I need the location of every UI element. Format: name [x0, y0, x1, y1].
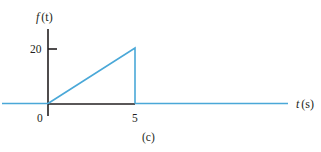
- chart: f(t) 20 0 5 t(s) (c): [0, 0, 321, 152]
- figure-caption: (c): [142, 131, 155, 144]
- y-axis-label: f(t): [36, 10, 53, 24]
- x-tick-label-5: 5: [132, 112, 138, 124]
- signal-ramp: [48, 48, 135, 104]
- x-axis-label: t(s): [296, 97, 314, 111]
- x-tick-label-0: 0: [37, 112, 43, 124]
- y-tick-label-20: 20: [30, 43, 42, 55]
